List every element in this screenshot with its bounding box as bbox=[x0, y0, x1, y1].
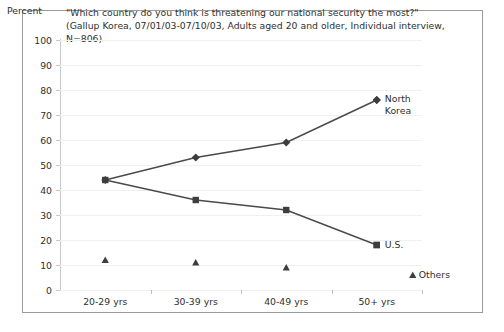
diamond-marker bbox=[373, 96, 381, 104]
diamond-marker bbox=[192, 154, 200, 162]
triangle-marker bbox=[102, 256, 109, 263]
chart-figure: Percent "Which country do you think is t… bbox=[0, 0, 504, 332]
square-marker bbox=[283, 207, 289, 213]
diamond-marker bbox=[282, 139, 290, 147]
triangle-marker bbox=[409, 271, 416, 278]
triangle-marker bbox=[283, 264, 290, 271]
series-line bbox=[105, 100, 377, 180]
series-label-others: Others bbox=[419, 269, 450, 281]
series-label-us: U.S. bbox=[385, 239, 404, 251]
triangle-marker bbox=[192, 259, 199, 266]
square-marker bbox=[374, 242, 380, 248]
series-line bbox=[105, 180, 377, 245]
series-label-north-korea: North Korea bbox=[385, 93, 411, 116]
series-others bbox=[102, 256, 290, 270]
series-u-s bbox=[102, 177, 380, 248]
series-north-korea bbox=[101, 96, 381, 184]
square-marker bbox=[193, 197, 199, 203]
square-marker bbox=[102, 177, 108, 183]
series-layer bbox=[0, 0, 504, 332]
